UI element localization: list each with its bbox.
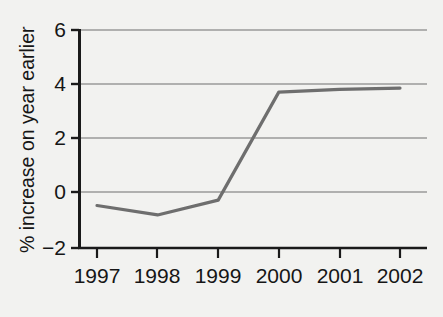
x-tick-label-1997: 1997: [74, 264, 121, 287]
chart-container: 6 4 2 0 −2 1997 1998 1999 2000 2001 2002…: [0, 0, 443, 317]
y-tick-label-4: 4: [54, 72, 66, 95]
x-tick-label-2000: 2000: [256, 264, 303, 287]
x-tick-label-1999: 1999: [195, 264, 242, 287]
x-tick-label-2002: 2002: [377, 264, 424, 287]
y-tick-label-0: 0: [54, 180, 66, 203]
y-tick-label-minus2: −2: [42, 236, 66, 259]
x-tick-label-1998: 1998: [134, 264, 181, 287]
y-tick-label-2: 2: [54, 126, 66, 149]
line-chart: 6 4 2 0 −2 1997 1998 1999 2000 2001 2002…: [0, 0, 443, 317]
y-tick-label-6: 6: [54, 18, 66, 41]
x-tick-label-2001: 2001: [317, 264, 364, 287]
y-axis-label: % increase on year earlier: [16, 26, 38, 253]
